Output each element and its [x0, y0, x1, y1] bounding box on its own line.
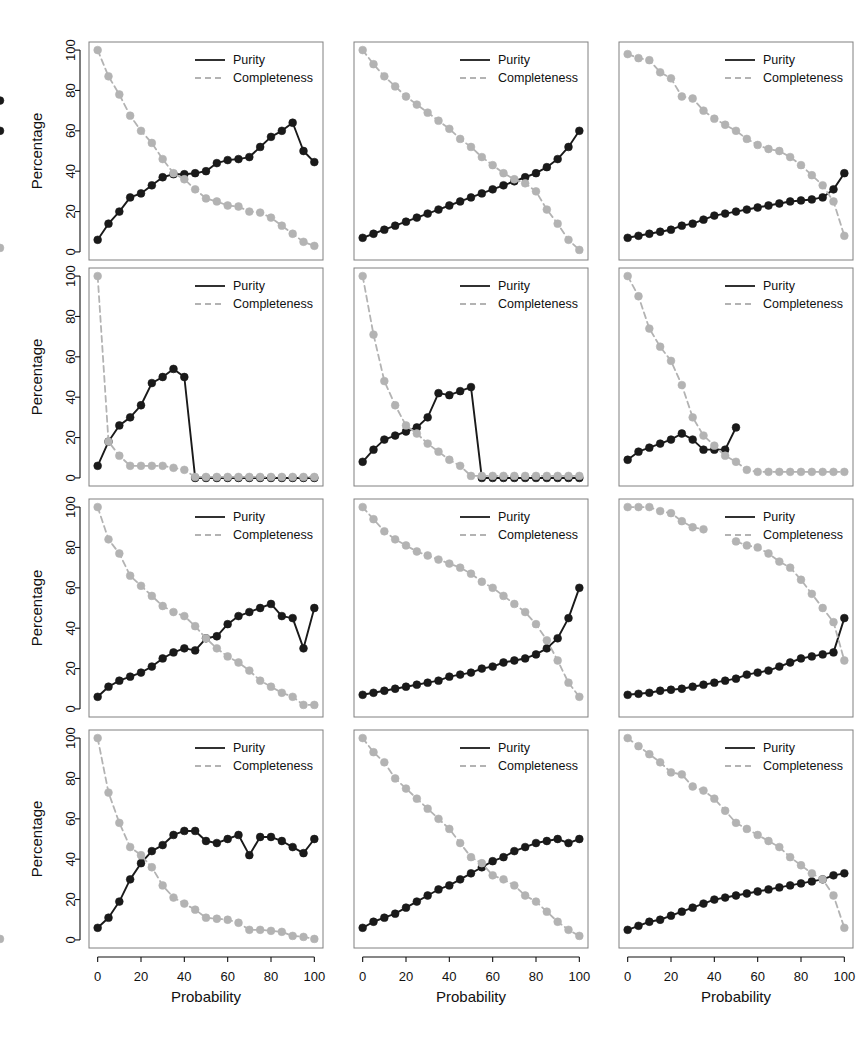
- y-tick-label: 80: [64, 771, 79, 785]
- completeness-point: [413, 548, 421, 556]
- purity-point: [202, 167, 210, 175]
- purity-point: [424, 413, 432, 421]
- purity-point: [467, 869, 475, 877]
- completeness-point: [435, 448, 443, 456]
- completeness-point: [137, 462, 145, 470]
- x-tick-label: 100: [568, 969, 590, 984]
- purity-point: [224, 620, 232, 628]
- completeness-point: [359, 46, 367, 54]
- completeness-point: [424, 805, 432, 813]
- purity-point: [645, 689, 653, 697]
- completeness-point: [256, 209, 264, 217]
- x-tick-label: 100: [833, 969, 855, 984]
- completeness-point: [532, 472, 540, 480]
- completeness-point: [402, 422, 410, 430]
- completeness-point: [624, 734, 632, 742]
- purity-point: [256, 604, 264, 612]
- purity-point: [224, 835, 232, 843]
- completeness-point: [105, 72, 113, 80]
- completeness-point: [819, 468, 827, 476]
- legend-completeness-label: Completeness: [763, 528, 843, 542]
- x-tick-label: 60: [485, 969, 499, 984]
- purity-point: [678, 222, 686, 230]
- purity-point: [830, 871, 838, 879]
- completeness-point: [413, 101, 421, 109]
- legend-completeness-label: Completeness: [498, 71, 578, 85]
- purity-point: [645, 918, 653, 926]
- purity-point: [170, 649, 178, 657]
- purity-point: [126, 875, 134, 883]
- y-tick-label: 0: [64, 936, 79, 943]
- y-axis-title: Percentage: [28, 113, 45, 190]
- completeness-point: [510, 600, 518, 608]
- purity-point: [370, 230, 378, 238]
- purity-point: [300, 644, 308, 652]
- purity-point: [532, 169, 540, 177]
- chart-panel: 020406080100ProbabilityPurityCompletenes…: [619, 730, 855, 1005]
- completeness-point: [840, 232, 848, 240]
- purity-point: [721, 677, 729, 685]
- purity-point: [489, 663, 497, 671]
- completeness-point: [235, 203, 243, 211]
- y-tick-label: 60: [64, 124, 79, 138]
- purity-point: [245, 851, 253, 859]
- purity-point: [521, 843, 529, 851]
- completeness-point: [413, 795, 421, 803]
- purity-point: [310, 835, 318, 843]
- completeness-point: [445, 560, 453, 568]
- completeness-point: [467, 853, 475, 861]
- completeness-point: [743, 466, 751, 474]
- purity-point: [424, 679, 432, 687]
- purity-point: [0, 127, 4, 135]
- completeness-point: [819, 875, 827, 883]
- purity-point: [126, 413, 134, 421]
- completeness-point: [543, 472, 551, 480]
- purity-point: [191, 827, 199, 835]
- chart-panel: PurityCompleteness: [354, 499, 588, 717]
- y-tick-label: 0: [64, 474, 79, 481]
- completeness-point: [721, 452, 729, 460]
- completeness-point: [359, 272, 367, 280]
- purity-point: [700, 900, 708, 908]
- completeness-point: [202, 914, 210, 922]
- completeness-point: [213, 644, 221, 652]
- purity-point: [635, 922, 643, 930]
- purity-point: [456, 875, 464, 883]
- purity-point: [180, 827, 188, 835]
- completeness-point: [278, 473, 286, 481]
- purity-point: [413, 214, 421, 222]
- completeness-point: [754, 831, 762, 839]
- completeness-point: [775, 558, 783, 566]
- purity-point: [94, 462, 102, 470]
- completeness-point: [743, 542, 751, 550]
- completeness-point: [667, 768, 675, 776]
- completeness-point: [148, 139, 156, 147]
- completeness-point: [180, 900, 188, 908]
- completeness-point: [532, 620, 540, 628]
- completeness-point: [710, 115, 718, 123]
- purity-point: [510, 657, 518, 665]
- completeness-point: [289, 473, 297, 481]
- purity-point: [775, 884, 783, 892]
- completeness-point: [380, 72, 388, 80]
- purity-point: [424, 210, 432, 218]
- purity-point: [500, 853, 508, 861]
- purity-point: [700, 216, 708, 224]
- y-tick-label: 0: [64, 705, 79, 712]
- completeness-point: [267, 683, 275, 691]
- completeness-point: [94, 272, 102, 280]
- completeness-point: [180, 612, 188, 620]
- completeness-point: [370, 748, 378, 756]
- chart-panel: PurityCompleteness: [354, 268, 588, 486]
- completeness-point: [775, 147, 783, 155]
- purity-point: [380, 914, 388, 922]
- completeness-point: [700, 787, 708, 795]
- purity-point: [137, 401, 145, 409]
- completeness-point: [137, 127, 145, 135]
- purity-point: [667, 912, 675, 920]
- completeness-point: [786, 468, 794, 476]
- completeness-point: [115, 91, 123, 99]
- completeness-point: [830, 468, 838, 476]
- completeness-point: [500, 169, 508, 177]
- purity-point: [300, 849, 308, 857]
